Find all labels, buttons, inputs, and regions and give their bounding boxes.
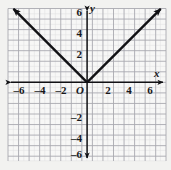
x-tick-label--2: –2: [51, 85, 71, 96]
y-tick-label--2: –2: [58, 112, 82, 123]
x-tick-label-2: 2: [98, 85, 118, 96]
origin-label: O: [76, 85, 84, 96]
x-tick-label--4: –4: [30, 85, 50, 96]
y-tick-label--4: –4: [58, 133, 82, 144]
y-axis-label: y: [90, 3, 95, 14]
x-axis-label: x: [154, 68, 160, 79]
y-tick-label--6: –6: [58, 149, 82, 160]
y-tick-label-6: 6: [62, 7, 82, 18]
y-tick-label-2: 2: [62, 49, 82, 60]
y-tick-label-4: 4: [62, 28, 82, 39]
x-tick-label-4: 4: [119, 85, 139, 96]
x-tick-label--6: –6: [9, 85, 29, 96]
x-tick-label-6: 6: [140, 85, 160, 96]
graph-screenshot: –6 –4 –2 2 4 6 6 4 2 –2 –4 –6 O x y: [0, 0, 171, 170]
